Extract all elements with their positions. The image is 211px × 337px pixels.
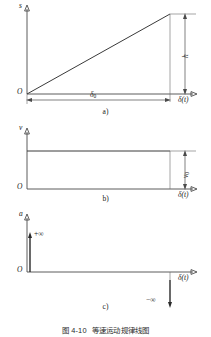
y-axis-label-a: s (19, 2, 22, 10)
panel-c-graphics (0, 206, 211, 314)
x-axis-label-a: δ(t) (178, 96, 189, 104)
x-axis-label-c: δ(t) (178, 274, 189, 282)
panel-velocity: v O δ(t) v0 b) (0, 118, 211, 206)
panel-displacement: s O δ(t) h δ0 a) (0, 0, 211, 118)
y-axis-label-b: v (19, 124, 22, 132)
v0-base: v (181, 175, 190, 178)
figure-caption-text: 等速运动规律线图 (92, 326, 150, 335)
h-dimension-label: h (182, 54, 190, 58)
origin-label-c: O (17, 266, 22, 274)
displacement-ramp-curve (27, 14, 170, 94)
delta0-dimension-label: δ0 (90, 91, 96, 100)
figure-caption-number: 图 4-10 (62, 326, 87, 335)
x-axis-label-c-arg: (t) (182, 273, 189, 282)
sublabel-c: c) (0, 302, 211, 311)
x-axis-label-a-arg: (t) (182, 95, 189, 104)
figure-caption: 图 4-10等速运动规律线图 (0, 324, 211, 335)
origin-label-b: O (17, 183, 22, 191)
y-axis-label-c: a (19, 210, 23, 218)
positive-infinity-label: +∞ (34, 230, 44, 238)
origin-label-a: O (17, 88, 22, 96)
panel-acceleration: a O δ(t) +∞ −∞ c) (0, 206, 211, 314)
positive-infinity-arrowhead (28, 232, 32, 238)
delta0-subscript: 0 (94, 93, 97, 99)
motion-law-diagram: s O δ(t) h δ0 a) v O δ(t) (0, 0, 211, 337)
sublabel-b: b) (0, 194, 211, 203)
sublabel-a: a) (0, 107, 211, 116)
v0-dimension-label: v0 (182, 172, 191, 178)
v0-subscript: 0 (184, 172, 190, 175)
